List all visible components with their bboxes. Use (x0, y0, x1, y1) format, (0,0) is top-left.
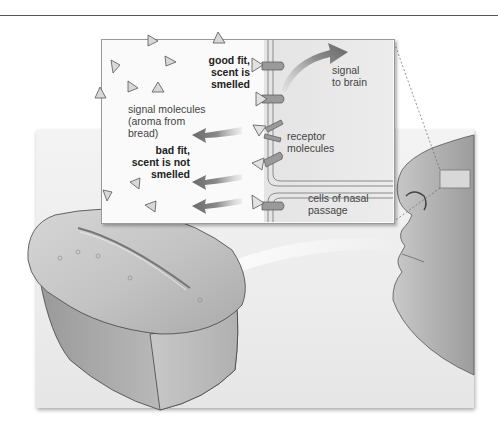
signal-molecules-line-3: bread) (128, 127, 228, 139)
label-signal-molecules: signal molecules (aroma from bread) (128, 103, 228, 139)
label-good-fit: good fit, scent is smelled (190, 54, 250, 90)
receptor-line-2: molecules (287, 142, 367, 154)
cells-line-2: passage (308, 204, 393, 216)
signal-to-brain-line-2: to brain (332, 76, 392, 88)
bound-molecules (252, 58, 267, 209)
signal-molecules-line-1: signal molecules (128, 103, 228, 115)
receptor-1 (262, 62, 284, 70)
bad-fit-line-1: bad fit, (118, 144, 190, 156)
good-fit-line-2: scent is (190, 66, 250, 78)
label-signal-to-brain: signal to brain (332, 64, 392, 88)
label-bad-fit: bad fit, scent is not smelled (118, 144, 190, 180)
cells-line-1: cells of nasal (308, 192, 393, 204)
label-receptor-molecules: receptor molecules (287, 130, 367, 154)
good-fit-line-1: good fit, (190, 54, 250, 66)
bounce-arrow-3 (192, 198, 242, 214)
good-fit-line-3: smelled (190, 78, 250, 90)
bad-fit-line-2: scent is not (118, 156, 190, 168)
signal-molecules-line-2: (aroma from (128, 115, 228, 127)
label-cells-of-nasal-passage: cells of nasal passage (308, 192, 393, 216)
signal-to-brain-line-1: signal (332, 64, 392, 76)
bad-fit-line-3: smelled (118, 168, 190, 180)
rejection-arrows (192, 127, 242, 214)
receptor-line-1: receptor (287, 130, 367, 142)
receptor-5 (262, 202, 284, 210)
bounce-arrow-2 (192, 174, 242, 190)
